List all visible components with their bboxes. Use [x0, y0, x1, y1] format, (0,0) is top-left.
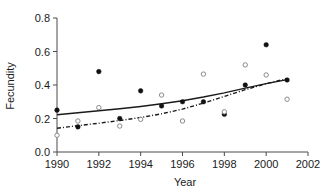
data-point-filled — [117, 116, 122, 121]
y-tick-label: 0.0 — [35, 146, 50, 158]
data-point-open — [222, 110, 226, 114]
x-tick-label: 2002 — [296, 158, 320, 170]
data-point-filled — [97, 69, 102, 74]
data-point-open — [243, 63, 247, 67]
y-tick-label: 0.8 — [35, 12, 50, 24]
data-point-filled — [201, 99, 206, 104]
data-point-open — [138, 117, 142, 121]
solid-trend-line — [57, 80, 287, 115]
y-tick-label: 0.6 — [35, 46, 50, 58]
data-point-open — [159, 93, 163, 97]
data-points — [55, 43, 290, 138]
x-tick-label: 2000 — [254, 158, 278, 170]
y-tick-label: 0.2 — [35, 113, 50, 125]
x-tick-label: 1996 — [170, 158, 194, 170]
x-tick-label: 1992 — [87, 158, 111, 170]
data-point-filled — [180, 99, 185, 104]
chart-canvas: 0.00.20.40.60.8 199019921994199619982000… — [0, 0, 324, 192]
y-axis-tick-labels: 0.00.20.40.60.8 — [35, 12, 50, 158]
fecundity-year-chart: 0.00.20.40.60.8 199019921994199619982000… — [0, 0, 324, 192]
y-tick-label: 0.4 — [35, 79, 50, 91]
data-point-open — [55, 133, 59, 137]
x-tick-label: 1990 — [45, 158, 69, 170]
y-axis-ticks — [53, 18, 57, 152]
y-axis-title: Fecundity — [4, 62, 16, 110]
data-point-filled — [243, 83, 248, 88]
data-point-filled — [55, 108, 60, 113]
trend-lines — [57, 79, 287, 129]
data-point-filled — [138, 89, 143, 94]
data-point-filled — [264, 43, 269, 48]
x-tick-label: 1998 — [212, 158, 236, 170]
data-point-open — [76, 119, 80, 123]
data-point-open — [201, 72, 205, 76]
data-point-open — [264, 73, 268, 77]
data-point-open — [180, 119, 184, 123]
x-axis-title: Year — [174, 176, 197, 188]
x-axis-ticks — [57, 152, 308, 156]
data-point-filled — [159, 104, 164, 109]
data-point-open — [97, 105, 101, 109]
data-point-filled — [285, 78, 290, 83]
data-point-open — [285, 97, 289, 101]
plot-area: 0.00.20.40.60.8 199019921994199619982000… — [35, 12, 321, 170]
x-tick-label: 1994 — [128, 158, 152, 170]
data-point-filled — [76, 125, 81, 130]
x-axis-tick-labels: 1990199219941996199820002002 — [45, 158, 320, 170]
data-point-open — [118, 124, 122, 128]
